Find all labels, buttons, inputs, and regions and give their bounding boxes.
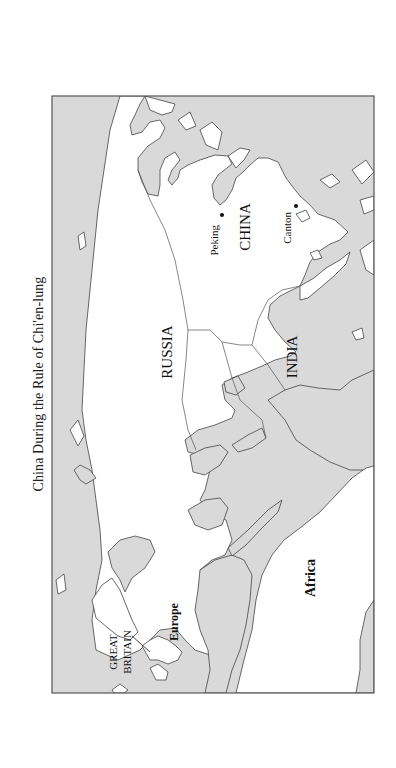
label-europe: Europe — [167, 602, 181, 640]
peking-marker — [220, 213, 224, 217]
canton-marker — [294, 204, 298, 208]
label-india: INDIA — [284, 336, 300, 379]
label-britain: BRITAIN — [121, 630, 133, 674]
label-africa: Africa — [303, 559, 318, 597]
label-great: GREAT — [107, 634, 119, 670]
map: RUSSIA CHINA INDIA Peking Canton Europe … — [0, 0, 396, 768]
label-china: CHINA — [237, 203, 253, 251]
label-russia: RUSSIA — [159, 325, 175, 379]
city-peking: Peking — [208, 225, 220, 256]
city-canton: Canton — [281, 212, 293, 244]
